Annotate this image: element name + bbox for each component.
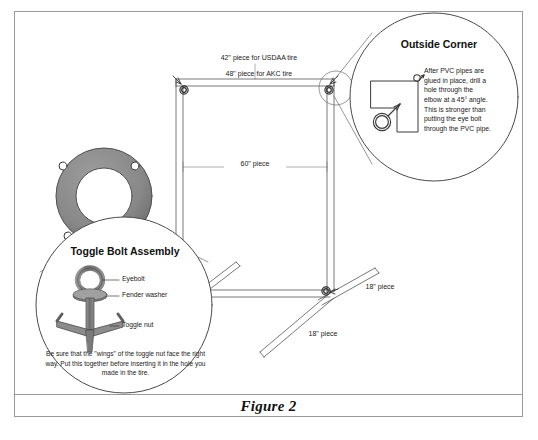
part-label-eyebolt: Eyebolt [122,275,145,282]
bolt-shaft [86,298,94,330]
top-pipe-akc-text: 48" piece for AKC tire [226,70,293,77]
right-vertical-pipe [327,79,334,292]
figure-page: 42" piece for USDAA tire 48" piece for A… [0,0,538,440]
toggle-bolt-title: Toggle Bolt Assembly [56,245,194,257]
dimension-label-top-pipe: 42" piece for USDAA tire 48" piece for A… [196,46,314,86]
eyebolt-ring-top-right [325,86,333,94]
top-pipe-usdaa-text: 42" piece for USDAA tire [221,54,297,61]
dimension-label-foot-left: 18" piece [301,330,345,338]
dimension-label-foot-right: 18" piece [358,283,402,291]
foot-piece-right-lower [260,293,334,357]
figure-caption-bar: Figure 2 [14,394,523,417]
outside-corner-body: After PVC pipes are glued in place, dril… [424,66,492,133]
eyebolt-ring-bottom-right [322,287,330,295]
outside-corner-title: Outside Corner [380,38,498,50]
toggle-bolt-footnote: Be sure that the "wings" of the toggle n… [44,349,207,378]
dimension-label-crossbar: 60" piece [224,160,286,168]
part-label-fender-washer: Fender washer [122,291,167,298]
figure-caption: Figure 2 [240,398,296,415]
eyebolt-ring-top-left [180,86,188,94]
part-label-toggle-nut: Toggle nut [122,321,153,328]
